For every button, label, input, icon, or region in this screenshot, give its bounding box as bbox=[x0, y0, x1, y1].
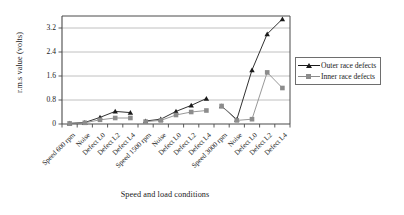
data-point-marker bbox=[280, 16, 285, 21]
data-point-marker bbox=[143, 119, 148, 124]
data-point-marker bbox=[159, 118, 164, 123]
data-point-marker bbox=[189, 110, 194, 115]
data-point-marker bbox=[250, 117, 255, 122]
y-tick-label: 1.6 bbox=[16, 71, 56, 80]
data-point-marker bbox=[83, 121, 88, 126]
chart-figure: r.m.s value (volts) Speed and load condi… bbox=[0, 0, 404, 215]
data-point-marker bbox=[280, 86, 285, 91]
legend-marker-square-icon bbox=[298, 72, 320, 81]
data-point-marker bbox=[98, 118, 103, 123]
legend-item: Outer race defects bbox=[298, 60, 376, 71]
y-tick-label: 2.4 bbox=[16, 47, 56, 56]
legend-label: Outer race defects bbox=[320, 61, 376, 70]
data-point-marker bbox=[235, 118, 240, 123]
y-tick-label: 3.2 bbox=[16, 23, 56, 32]
data-point-marker bbox=[128, 116, 133, 121]
data-point-marker bbox=[204, 96, 209, 101]
data-point-marker bbox=[189, 103, 194, 108]
data-point-marker bbox=[204, 108, 209, 113]
data-point-marker bbox=[67, 121, 72, 126]
series-line-2 bbox=[222, 72, 283, 120]
data-point-marker bbox=[265, 70, 270, 75]
y-tick-label: 0.8 bbox=[16, 95, 56, 104]
chart-legend: Outer race defects Inner race defects bbox=[295, 57, 381, 85]
data-point-marker bbox=[249, 67, 254, 72]
data-point-marker bbox=[174, 113, 179, 118]
data-point-marker bbox=[219, 104, 224, 109]
data-point-marker bbox=[113, 116, 118, 121]
gridlines bbox=[62, 28, 290, 100]
legend-label: Inner race defects bbox=[320, 72, 375, 81]
legend-item: Inner race defects bbox=[298, 71, 376, 82]
y-tick-label: 0 bbox=[16, 119, 56, 128]
data-series-layer bbox=[67, 16, 285, 125]
legend-marker-triangle-icon bbox=[298, 61, 320, 70]
